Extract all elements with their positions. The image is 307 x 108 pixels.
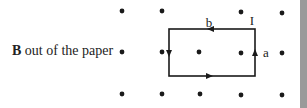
field-dots [120, 9, 285, 98]
field-dot [239, 93, 244, 98]
arrow-right-up-icon [252, 49, 258, 56]
field-dot [160, 50, 165, 55]
field-dot [280, 11, 285, 16]
field-dot [160, 92, 165, 97]
field-dot [280, 93, 285, 98]
field-dot [120, 92, 125, 97]
field-dot [160, 9, 165, 14]
field-dot [280, 51, 285, 56]
field-dot [198, 92, 203, 97]
label-a: a [263, 45, 269, 60]
field-dot [120, 50, 125, 55]
page-edge-bar [300, 0, 307, 108]
field-dot [120, 9, 125, 14]
arrow-left-down-icon [166, 50, 172, 57]
arrow-bottom-right-icon [206, 73, 213, 79]
field-dot [239, 51, 244, 56]
magnetic-field-diagram: b I a [0, 0, 307, 108]
field-dot [239, 10, 244, 15]
field-dot [197, 50, 202, 55]
label-b: b [206, 15, 213, 30]
label-current: I [250, 13, 254, 28]
